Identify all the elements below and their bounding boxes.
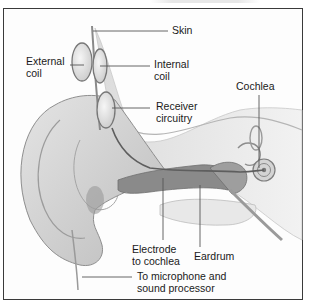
label-skin: Skin <box>172 24 192 36</box>
label-external-coil: External coil <box>26 55 65 79</box>
label-electrode: Electrode to cochlea <box>132 243 180 267</box>
label-microphone: To microphone and sound processor <box>137 270 226 294</box>
external-coil-shape <box>72 43 92 81</box>
label-receiver-circuitry: Receiver circuitry <box>156 100 197 124</box>
label-cochlea: Cochlea <box>236 80 275 92</box>
receiver-shape <box>97 92 115 128</box>
label-eardrum: Eardrum <box>194 250 234 262</box>
label-internal-coil: Internal coil <box>154 58 189 82</box>
